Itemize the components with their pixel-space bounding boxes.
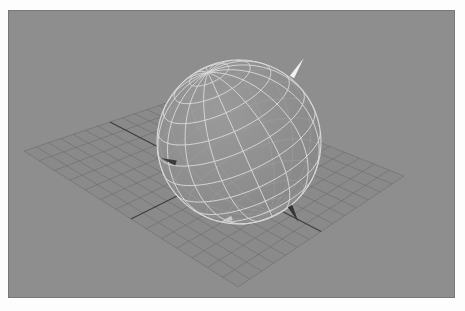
screenshot-root: [0, 0, 465, 311]
scene-svg: [8, 10, 455, 298]
wireframe-sphere-group[interactable]: [157, 60, 321, 224]
3d-viewport-canvas[interactable]: [8, 10, 455, 298]
